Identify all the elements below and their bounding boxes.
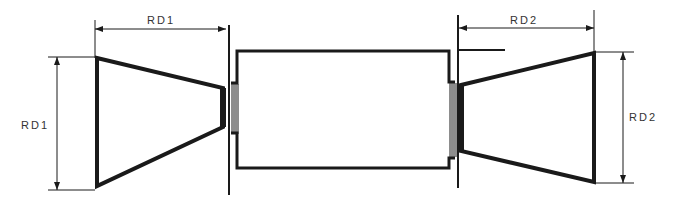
reducer-diagram: RD1 RD1 RD2 RD2 (0, 0, 682, 208)
left-height-dimension (48, 57, 95, 190)
right-reducer-cone (461, 53, 594, 182)
left-cone-flange (220, 88, 226, 127)
left-height-label: RD1 (21, 119, 49, 131)
central-body (231, 51, 455, 168)
right-coupling (450, 83, 456, 157)
right-height-dimension (594, 52, 634, 183)
right-height-label: RD2 (629, 111, 657, 123)
right-width-label: RD2 (510, 14, 538, 26)
left-coupling (232, 84, 238, 134)
right-cone-flange (459, 84, 464, 152)
left-width-label: RD1 (147, 14, 175, 26)
left-reducer-cone (97, 58, 223, 186)
